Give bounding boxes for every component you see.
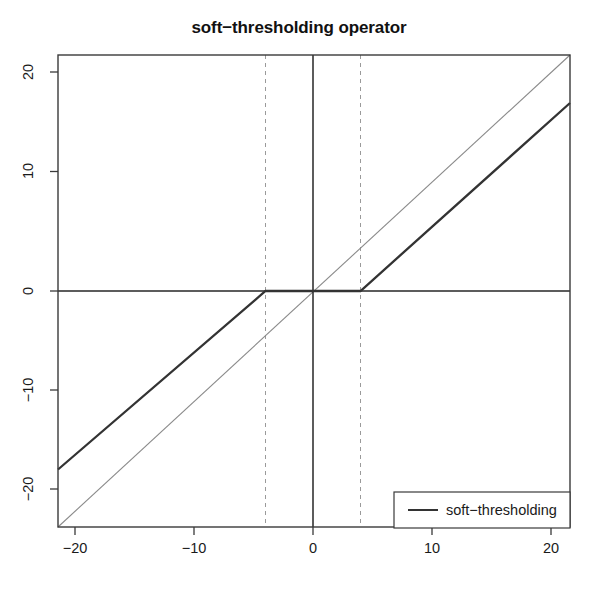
x-axis-tick-label: 0 [289, 540, 337, 556]
x-axis-tick-label: 20 [527, 540, 575, 556]
x-axis-tick-label: −20 [51, 540, 99, 556]
x-axis-tick-label: −10 [170, 540, 218, 556]
legend-entry-label: soft−thresholding [446, 502, 557, 518]
x-axis-tick-label: 10 [408, 540, 456, 556]
figure-canvas: soft−thresholding operator 20 1 [0, 0, 598, 592]
y-axis-tick-label: 10 [20, 153, 36, 189]
y-axis-tick-label: −10 [20, 372, 36, 408]
y-axis-tick-label: −20 [20, 471, 36, 507]
y-axis-tick-label: 0 [20, 273, 36, 309]
y-axis-tick-label: 20 [20, 54, 36, 90]
